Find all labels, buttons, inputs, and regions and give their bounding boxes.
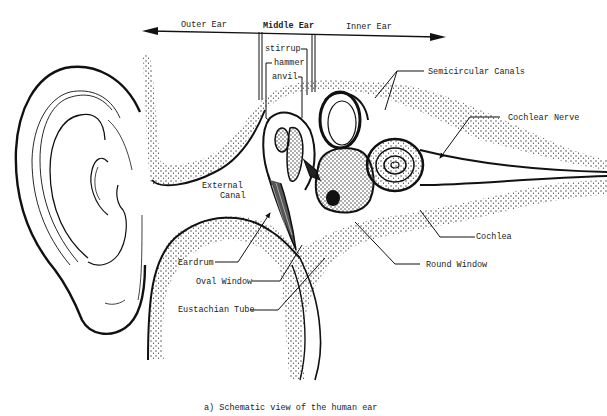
stirrup-label: stirrup: [265, 45, 301, 54]
pinna: [16, 67, 145, 334]
eardrum-label: Eardrum: [178, 259, 214, 268]
anvil-label: anvil: [272, 73, 298, 82]
cochlear-nerve-label: Cochlear Nerve: [508, 114, 579, 123]
vestibule: [316, 148, 374, 212]
semicircular-canals-label: Semicircular Canals: [428, 68, 525, 77]
eustachian-tube-label: Eustachian Tube: [178, 306, 255, 315]
outer-ear-label: Outer Ear: [181, 21, 227, 30]
external-canal-label-line1: External: [202, 182, 243, 191]
middle-ear-label: Middle Ear: [263, 22, 314, 31]
round-window-label: Round Window: [426, 261, 487, 270]
figure-caption: a) Schematic view of the human ear: [204, 404, 377, 413]
cochlea: [367, 139, 423, 191]
external-canal-label-line2: Canal: [220, 192, 246, 201]
inner-ear-label: Inner Ear: [346, 23, 392, 32]
round-window-spot: [326, 190, 340, 206]
semicircular-canals: [320, 92, 368, 148]
hammer-label: hammer: [274, 59, 305, 68]
oval-window-label: Oval Window: [196, 278, 252, 287]
cochlea-label: Cochlea: [476, 233, 512, 242]
